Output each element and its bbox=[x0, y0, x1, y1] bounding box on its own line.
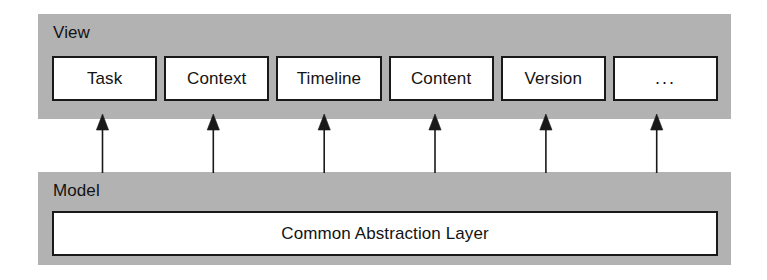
view-component-more[interactable]: ... bbox=[613, 56, 718, 101]
view-component-version[interactable]: Version bbox=[501, 56, 606, 101]
view-component-content-label: Content bbox=[411, 69, 471, 89]
layered-architecture-diagram: View Task Context Timeline Content Versi… bbox=[0, 0, 767, 280]
connector-arrow-to-context bbox=[207, 114, 219, 173]
model-component-common-abstraction-layer[interactable]: Common Abstraction Layer bbox=[52, 211, 718, 256]
view-component-content[interactable]: Content bbox=[389, 56, 494, 101]
view-component-timeline[interactable]: Timeline bbox=[276, 56, 381, 101]
connector-arrow-to-task bbox=[96, 114, 108, 173]
view-component-row: Task Context Timeline Content Version ..… bbox=[52, 56, 718, 101]
model-layer-title: Model bbox=[53, 181, 100, 201]
connector-arrow-to-timeline bbox=[318, 114, 330, 173]
connector-arrow-to-content bbox=[429, 114, 441, 173]
model-component-common-abstraction-layer-label: Common Abstraction Layer bbox=[281, 224, 488, 244]
view-component-timeline-label: Timeline bbox=[297, 69, 361, 89]
view-component-context-label: Context bbox=[187, 69, 246, 89]
view-component-version-label: Version bbox=[525, 69, 582, 89]
view-layer-title: View bbox=[53, 23, 90, 43]
view-component-task-label: Task bbox=[87, 69, 122, 89]
view-component-context[interactable]: Context bbox=[164, 56, 269, 101]
connector-arrow-to-more bbox=[651, 114, 663, 173]
view-component-task[interactable]: Task bbox=[52, 56, 157, 101]
view-component-more-label: ... bbox=[655, 68, 676, 89]
connector-arrow-to-version bbox=[540, 114, 552, 173]
